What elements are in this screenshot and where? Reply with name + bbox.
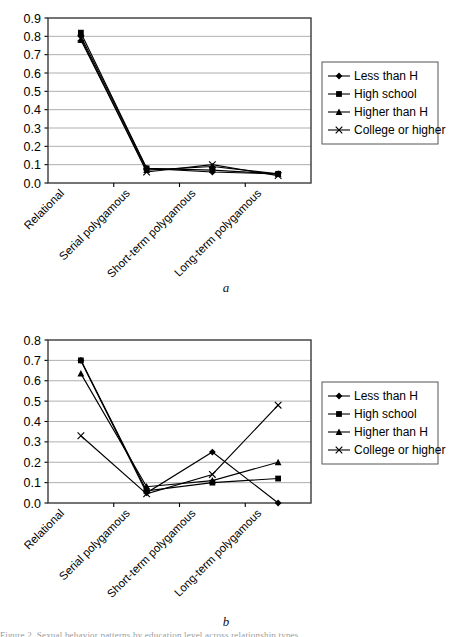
x-axis-category-label: Serial polygamous (57, 187, 133, 263)
data-point-cross-0 (78, 432, 85, 439)
data-point-square-0 (78, 357, 84, 363)
legend-label: Less than H (354, 389, 418, 403)
chart-panel-b: 0.00.10.20.30.40.50.60.70.8RelationalSer… (0, 318, 452, 618)
series-line-triangle (81, 374, 278, 487)
y-axis-tick-label: 0.8 (24, 30, 41, 44)
y-axis-tick-label: 0.2 (24, 456, 41, 470)
y-axis-tick-label: 0.0 (24, 497, 41, 511)
legend-symbol (336, 91, 342, 97)
legend: Less than HHigh schoolHigher than HColle… (322, 62, 445, 144)
plot-frame (48, 18, 311, 183)
series-line-cross (81, 38, 278, 176)
legend-label: High school (354, 407, 417, 421)
chart-a-svg: 0.00.10.20.30.40.50.60.70.80.9Relational… (0, 0, 452, 310)
marker-square (336, 411, 342, 417)
marker-triangle (77, 370, 84, 377)
chart-panel-a: 0.00.10.20.30.40.50.60.70.80.9Relational… (0, 0, 452, 310)
y-axis-tick-label: 0.7 (24, 48, 41, 62)
y-axis-tick-label: 0.1 (24, 476, 41, 490)
x-axis-category-label: Relational (22, 187, 67, 232)
marker-square (275, 476, 281, 482)
y-axis-tick-label: 0.6 (24, 374, 41, 388)
marker-cross (275, 402, 282, 409)
x-axis-category-label: Relational (22, 507, 67, 552)
y-axis-tick-label: 0.3 (24, 122, 41, 136)
legend-label: College or higher (354, 123, 445, 137)
series-line-square (81, 33, 278, 174)
marker-square (78, 30, 84, 36)
y-axis-tick-label: 0.4 (24, 103, 41, 117)
legend: Less than HHigh schoolHigher than HColle… (322, 382, 445, 464)
y-axis-tick-label: 0.4 (24, 415, 41, 429)
data-point-triangle-0 (77, 370, 84, 377)
marker-square (78, 357, 84, 363)
y-axis-tick-label: 0.9 (24, 12, 41, 26)
legend-label: Higher than H (354, 425, 428, 439)
y-axis-tick-label: 0.5 (24, 395, 41, 409)
chart-b-svg: 0.00.10.20.30.40.50.60.70.8RelationalSer… (0, 318, 452, 618)
figure-footnote: Figure 2. Sexual behavior patterns by ed… (0, 630, 452, 637)
legend-symbol (336, 411, 342, 417)
figure-container: 0.00.10.20.30.40.50.60.70.80.9Relational… (0, 0, 452, 637)
y-axis-tick-label: 0.2 (24, 140, 41, 154)
series-line-diamond (81, 36, 278, 174)
y-axis-tick-label: 0.3 (24, 435, 41, 449)
legend-label: College or higher (354, 443, 445, 457)
y-axis-tick-label: 0.6 (24, 67, 41, 81)
legend-label: High school (354, 87, 417, 101)
marker-cross (78, 432, 85, 439)
y-axis-tick-label: 0.5 (24, 85, 41, 99)
legend-label: Higher than H (354, 105, 428, 119)
series-line-triangle (81, 40, 278, 174)
y-axis-tick-label: 0.8 (24, 334, 41, 348)
x-axis-category-label: Serial polygamous (57, 507, 133, 583)
caption-b: b (0, 614, 452, 630)
data-point-square-3 (275, 476, 281, 482)
y-axis-tick-label: 0.7 (24, 354, 41, 368)
marker-cross (209, 471, 216, 478)
series-line-diamond (81, 360, 278, 503)
chart-b-canvas: 0.00.10.20.30.40.50.60.70.8RelationalSer… (0, 318, 452, 618)
data-point-cross-2 (209, 471, 216, 478)
y-axis-tick-label: 0.1 (24, 158, 41, 172)
legend-label: Less than H (354, 69, 418, 83)
caption-a: a (0, 280, 452, 296)
marker-square (336, 91, 342, 97)
y-axis-tick-label: 0.0 (24, 177, 41, 191)
chart-a-canvas: 0.00.10.20.30.40.50.60.70.80.9Relational… (0, 0, 452, 310)
data-point-square-0 (78, 30, 84, 36)
data-point-cross-3 (275, 402, 282, 409)
